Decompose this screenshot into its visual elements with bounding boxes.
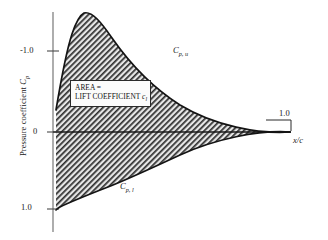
y-axis-title-text: Pressure coefficient (18, 87, 28, 156)
y-axis-title-symbol: C (18, 79, 28, 85)
upper-surface-subscript: p, u (179, 50, 188, 57)
x-axis-title: x/c (293, 135, 303, 145)
pressure-coefficient-figure: Pressure coefficient Cp -1.0 0 1.0 1.0 x… (0, 0, 328, 240)
lift-coefficient-shaded-area (56, 13, 290, 210)
upper-surface-curve-label: Cp, u (173, 45, 188, 57)
area-annotation-line-2: LIFT COEFFICIENT cl (75, 92, 147, 104)
y-axis-title: Pressure coefficient Cp (18, 46, 30, 186)
area-annotation-line-1: AREA = (75, 83, 147, 92)
y-tick-label-neg-one: -1.0 (20, 45, 33, 55)
area-annotation-subscript: l (145, 97, 147, 103)
y-axis-title-subscript: p (23, 76, 30, 79)
lower-surface-curve-label: Cp, l (120, 181, 134, 193)
x-tick-label-one: 1.0 (279, 108, 290, 118)
pressure-coefficient-plot (0, 0, 328, 240)
area-annotation-line-2-text: LIFT COEFFICIENT (75, 92, 140, 101)
y-tick-label-pos-one: 1.0 (21, 202, 32, 212)
y-tick-label-zero: 0 (33, 126, 37, 136)
lower-surface-subscript: p, l (126, 186, 134, 193)
area-annotation-box: AREA = LIFT COEFFICIENT cl (70, 80, 151, 107)
